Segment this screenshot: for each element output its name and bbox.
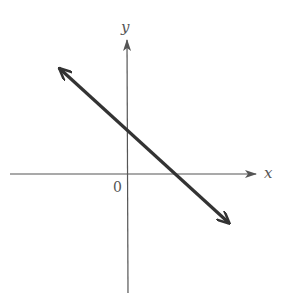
y-axis-label: y <box>120 18 130 36</box>
plotted-line <box>59 68 229 223</box>
x-axis-label: x <box>264 164 273 182</box>
y-axis <box>127 40 128 293</box>
origin-label: 0 <box>113 179 122 195</box>
coordinate-plane: y x 0 <box>0 0 282 295</box>
